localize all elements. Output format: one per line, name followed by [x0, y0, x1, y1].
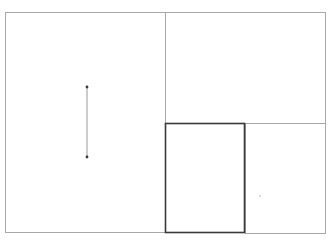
bottom-right-panel[interactable]	[246, 124, 326, 234]
layout-diagram	[0, 0, 333, 246]
marker-dot-icon	[259, 195, 261, 197]
top-right-panel[interactable]	[166, 13, 326, 124]
left-panel[interactable]	[6, 13, 166, 233]
diagram-canvas	[0, 0, 333, 246]
bottom-middle-panel-selected[interactable]	[166, 124, 245, 233]
